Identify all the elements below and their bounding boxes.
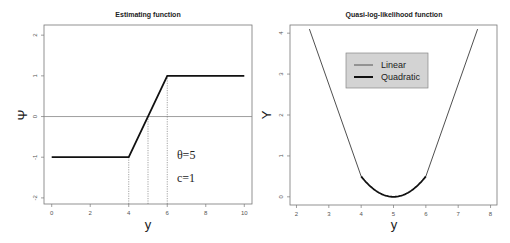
- y-axis-label: Ψ: [15, 110, 30, 121]
- x-axis-ticks: 2345678: [295, 205, 493, 217]
- x-tick-label: 4: [359, 211, 363, 217]
- x-tick-label: 0: [50, 210, 54, 216]
- y-axis-label: Υ: [259, 110, 274, 119]
- y-tick-label: -2: [32, 195, 38, 201]
- annotations: θ=5c=1: [177, 148, 196, 184]
- y-tick-label: 0: [278, 194, 284, 198]
- chart-title: Estimating function: [115, 11, 180, 19]
- reference-lines: [44, 76, 252, 204]
- annotation-text: θ=5: [177, 148, 196, 162]
- x-axis-ticks: 0246810: [50, 204, 248, 216]
- y-tick-label: 2: [278, 113, 284, 117]
- quadratic-curve: [361, 176, 426, 196]
- legend-label-quadratic: Quadratic: [381, 72, 421, 82]
- y-tick-label: 4: [278, 31, 284, 35]
- annotation-text: c=1: [177, 171, 195, 185]
- x-axis-label: y: [391, 217, 398, 232]
- x-tick-label: 7: [457, 211, 461, 217]
- figure: Estimating function 0246810 -2-1012 θ=5c…: [0, 0, 510, 243]
- y-tick-label: 0: [32, 114, 38, 118]
- y-tick-label: 2: [32, 33, 38, 37]
- y-tick-label: 3: [278, 72, 284, 76]
- linear-curve-left: [309, 29, 361, 176]
- plot-frame: [290, 25, 497, 205]
- linear-curve-right: [426, 29, 478, 176]
- x-axis-label: y: [145, 217, 152, 232]
- x-tick-label: 6: [424, 211, 428, 217]
- estimating-function-panel: Estimating function 0246810 -2-1012 θ=5c…: [15, 11, 252, 232]
- legend-label-linear: Linear: [381, 60, 406, 70]
- x-tick-label: 8: [489, 211, 493, 217]
- legend: Linear Quadratic: [346, 53, 428, 88]
- chart-title: Quasi-log-likelihood function: [346, 11, 443, 19]
- y-axis-ticks: 01234: [278, 31, 290, 199]
- x-tick-label: 2: [89, 210, 93, 216]
- y-tick-label: 1: [278, 154, 284, 158]
- y-tick-label: -1: [32, 154, 38, 160]
- legend-box: [346, 53, 428, 88]
- x-tick-label: 3: [327, 211, 331, 217]
- x-tick-label: 2: [295, 211, 299, 217]
- y-tick-label: 1: [32, 74, 38, 78]
- y-axis-ticks: -2-1012: [32, 33, 44, 201]
- x-tick-label: 8: [204, 210, 208, 216]
- x-tick-label: 6: [166, 210, 170, 216]
- x-tick-label: 4: [127, 210, 131, 216]
- x-tick-label: 10: [241, 210, 248, 216]
- quasi-log-likelihood-panel: Quasi-log-likelihood function 2345678 01…: [259, 11, 497, 232]
